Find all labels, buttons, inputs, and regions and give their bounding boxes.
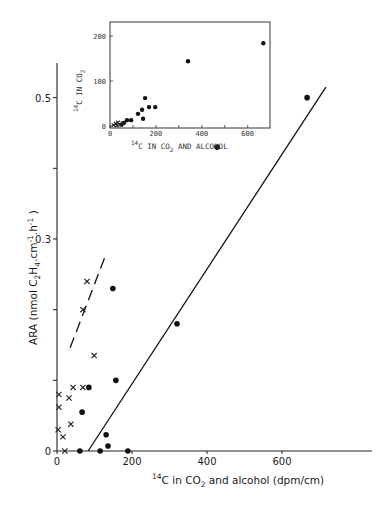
regression-crosses-line: [70, 254, 106, 348]
dot-marker: [113, 378, 119, 384]
cross-marker: [84, 279, 89, 284]
inset-x-tick-label: 200: [150, 130, 163, 138]
main-y-axis-label: ARA (nmol C2H4.cm-1.h-1 ): [26, 210, 42, 345]
dot-marker: [129, 118, 133, 122]
dot-marker: [136, 112, 140, 116]
inset-data-points: [112, 41, 266, 127]
inset-x-ticks: 0200400600: [108, 125, 254, 138]
cross-marker: [66, 395, 71, 400]
dot-marker: [103, 432, 109, 438]
dot-marker: [174, 321, 180, 327]
cross-marker: [71, 385, 76, 390]
inset-y-tick-label: 0: [102, 123, 106, 131]
dot-marker: [261, 41, 265, 45]
x-tick-label: 200: [122, 456, 141, 467]
cross-marker: [56, 427, 61, 432]
main-x-ticks: 0200400600: [54, 451, 292, 467]
y-tick-label: 0: [45, 446, 51, 457]
dot-marker: [141, 117, 145, 121]
y-tick-label: 0.5: [35, 93, 51, 104]
dot-marker: [110, 286, 116, 292]
dot-marker: [77, 448, 83, 454]
x-tick-label: 400: [197, 456, 216, 467]
dot-marker: [79, 409, 85, 415]
dot-marker: [86, 385, 92, 391]
dot-marker: [105, 443, 111, 449]
inset-plot: 0100200 0200400600 14C IN CO2 AND ALCOHO…: [72, 22, 270, 153]
inset-frame: [110, 22, 270, 128]
dot-marker: [125, 448, 131, 454]
dot-marker: [304, 95, 310, 101]
cross-marker: [60, 434, 65, 439]
x-tick-label: 600: [272, 456, 291, 467]
chart-figure: 00.30.5 0200400600 14C in CO2 and alcoho…: [0, 0, 390, 509]
cross-marker: [68, 422, 73, 427]
dot-marker: [97, 448, 103, 454]
inset-x-tick-label: 0: [108, 130, 112, 138]
x-tick-label: 0: [54, 456, 60, 467]
main-plot: 00.30.5 0200400600 14C in CO2 and alcoho…: [26, 63, 372, 489]
dot-marker: [153, 105, 157, 109]
inset-y-tick-label: 200: [93, 33, 106, 41]
main-x-axis-label: 14C in CO2 and alcohol (dpm/cm): [152, 472, 324, 489]
inset-x-tick-label: 600: [241, 130, 254, 138]
dot-marker: [147, 105, 151, 109]
inset-x-axis-label: 14C IN CO2 AND ALCOHOL: [131, 139, 228, 153]
cross-marker: [92, 353, 97, 358]
inset-x-tick-label: 400: [195, 130, 208, 138]
dot-marker: [143, 96, 147, 100]
dot-marker: [140, 108, 144, 112]
cross-marker: [80, 385, 85, 390]
dot-marker: [186, 59, 190, 63]
inset-y-tick-label: 100: [93, 78, 106, 86]
inset-y-axis-label: 14C IN CO2: [72, 69, 86, 112]
